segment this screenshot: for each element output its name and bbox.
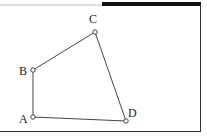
vertex-a-label: A bbox=[19, 112, 28, 126]
frame-top-thick bbox=[102, 2, 201, 6]
vertex-b-point bbox=[31, 68, 35, 72]
vertices bbox=[31, 30, 128, 123]
vertex-d-label: D bbox=[128, 106, 137, 120]
frame bbox=[0, 2, 201, 132]
edges bbox=[33, 32, 126, 121]
edge-da bbox=[33, 117, 126, 121]
vertex-b-label: B bbox=[19, 64, 27, 78]
vertex-c-point bbox=[93, 30, 97, 34]
quadrilateral-diagram: A B C D bbox=[0, 0, 207, 139]
edge-bc bbox=[33, 32, 95, 70]
vertex-a-point bbox=[31, 115, 35, 119]
edge-cd bbox=[95, 32, 126, 121]
vertex-c-label: C bbox=[89, 12, 97, 26]
